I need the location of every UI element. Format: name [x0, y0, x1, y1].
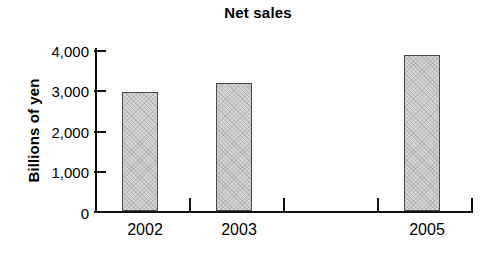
- x-separator-tick-1: [189, 198, 191, 212]
- y-tick-mark-2000: [94, 131, 106, 133]
- chart-title: Net sales: [0, 4, 486, 21]
- chart-figure: Net sales Billions of yen 0 1,000 2,000 …: [0, 0, 486, 260]
- bar-2005: [404, 55, 440, 211]
- bar-2003: [216, 83, 252, 211]
- y-tick-mark-3000: [94, 90, 106, 92]
- plot-area: [95, 48, 473, 214]
- x-separator-tick-3: [377, 198, 379, 212]
- y-tick-label-3000: 3,000: [5, 84, 89, 99]
- y-tick-label-2000: 2,000: [5, 125, 89, 140]
- y-tick-label-4000: 4,000: [5, 44, 89, 59]
- y-tick-mark-4000: [94, 50, 106, 52]
- y-tick-label-0: 0: [5, 206, 89, 221]
- y-tick-mark-1000: [94, 171, 106, 173]
- x-separator-tick-0: [95, 198, 97, 212]
- x-separator-tick-2: [283, 198, 285, 212]
- x-separator-tick-4: [471, 198, 473, 212]
- y-tick-label-1000: 1,000: [5, 165, 89, 180]
- bar-2002: [122, 92, 158, 211]
- x-tick-label-2005: 2005: [382, 222, 472, 238]
- x-tick-label-2002: 2002: [100, 222, 190, 238]
- x-tick-label-2003: 2003: [194, 222, 284, 238]
